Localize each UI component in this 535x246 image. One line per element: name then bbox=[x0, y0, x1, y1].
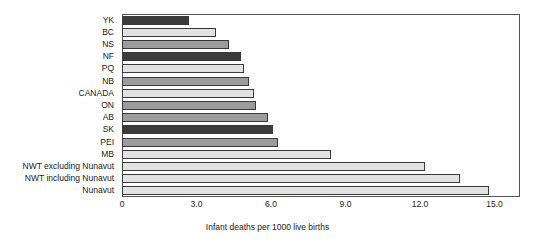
bar bbox=[122, 162, 425, 171]
value-axis-ticks: 03.06.09.012.015.0 bbox=[0, 199, 535, 219]
x-tick-label: 6.0 bbox=[265, 199, 277, 209]
bar bbox=[122, 16, 189, 25]
bar-row bbox=[122, 137, 520, 147]
infant-mortality-bar-chart: YKBCNSNFPQNBCANADAONABSKPEIMBNWT excludi… bbox=[0, 0, 535, 246]
category-label: MB bbox=[101, 150, 114, 159]
category-axis-labels: YKBCNSNFPQNBCANADAONABSKPEIMBNWT excludi… bbox=[0, 14, 118, 197]
bar-row bbox=[122, 64, 520, 74]
category-label: NS bbox=[102, 40, 114, 49]
x-tick-label: 3.0 bbox=[191, 199, 203, 209]
bar bbox=[122, 186, 489, 195]
x-axis-title: Infant deaths per 1000 live births bbox=[0, 222, 535, 232]
bar bbox=[122, 40, 229, 49]
bar bbox=[122, 174, 460, 183]
category-label: ON bbox=[101, 101, 114, 110]
category-label: NWT excluding Nunavut bbox=[23, 162, 115, 171]
x-tick-label: 9.0 bbox=[340, 199, 352, 209]
category-label: BC bbox=[102, 28, 114, 37]
bar bbox=[122, 125, 273, 134]
bar-row bbox=[122, 40, 520, 50]
category-label: YK bbox=[103, 16, 114, 25]
bar bbox=[122, 52, 241, 61]
x-tick-label: 12.0 bbox=[412, 199, 429, 209]
bar-row bbox=[122, 52, 520, 62]
bar-row bbox=[122, 125, 520, 135]
bar-row bbox=[122, 162, 520, 172]
bar-row bbox=[122, 101, 520, 111]
category-label: NF bbox=[103, 52, 114, 61]
bar bbox=[122, 28, 216, 37]
x-tick-label: 15.0 bbox=[486, 199, 503, 209]
bar-row bbox=[122, 88, 520, 98]
bar bbox=[122, 64, 244, 73]
bar-row bbox=[122, 113, 520, 123]
bar bbox=[122, 77, 249, 86]
bar-row bbox=[122, 174, 520, 184]
category-label: NB bbox=[102, 77, 114, 86]
category-label: NWT including Nunavut bbox=[25, 174, 114, 183]
category-label: PQ bbox=[102, 64, 114, 73]
bar bbox=[122, 150, 331, 159]
bar bbox=[122, 113, 268, 122]
category-label: AB bbox=[103, 113, 114, 122]
bar-row bbox=[122, 149, 520, 159]
category-label: Nunavut bbox=[82, 186, 114, 195]
category-label: CANADA bbox=[79, 89, 114, 98]
category-label: SK bbox=[103, 125, 114, 134]
bar bbox=[122, 89, 254, 98]
bar bbox=[122, 101, 256, 110]
bar-row bbox=[122, 76, 520, 86]
bars-container bbox=[122, 14, 520, 197]
bar-row bbox=[122, 15, 520, 25]
bar-row bbox=[122, 186, 520, 196]
category-label: PEI bbox=[100, 138, 114, 147]
bar bbox=[122, 138, 278, 147]
bar-row bbox=[122, 27, 520, 37]
x-tick-label: 0 bbox=[120, 199, 125, 209]
